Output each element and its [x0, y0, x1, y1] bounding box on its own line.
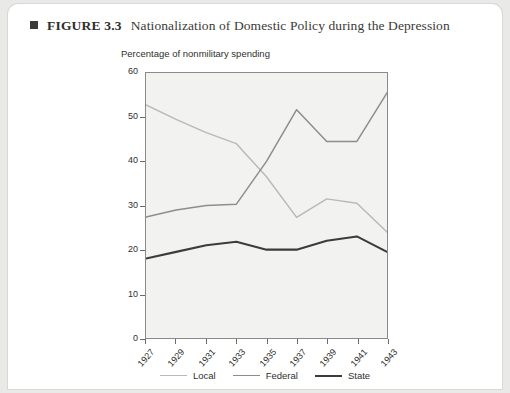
y-tick-label: 40 — [112, 155, 138, 165]
legend-swatch-icon — [315, 375, 342, 377]
x-tick-mark — [236, 339, 237, 344]
y-tick-label: 30 — [112, 200, 138, 210]
plot-area — [145, 72, 388, 339]
figure-footnote — [30, 382, 330, 389]
x-tick-mark — [327, 339, 328, 344]
legend-label: State — [348, 370, 370, 381]
y-axis-label: Percentage of nonmilitary spending — [121, 48, 270, 59]
chart-legend: LocalFederalState — [160, 370, 370, 381]
series-line-federal — [146, 93, 387, 217]
legend-item-local: Local — [160, 370, 216, 381]
y-tick-label: 50 — [112, 111, 138, 121]
x-tick-mark — [297, 339, 298, 344]
legend-label: Local — [193, 370, 216, 381]
x-tick-mark — [388, 339, 389, 344]
y-tick-label: 0 — [112, 333, 138, 343]
series-lines — [146, 73, 387, 338]
legend-swatch-icon — [160, 375, 187, 376]
legend-label: Federal — [266, 370, 298, 381]
chart: Percentage of nonmilitary spending 01020… — [8, 4, 502, 389]
x-tick-mark — [175, 339, 176, 344]
x-tick-mark — [267, 339, 268, 344]
x-tick-mark — [206, 339, 207, 344]
figure-page: FIGURE 3.3 Nationalization of Domestic P… — [8, 4, 502, 389]
x-tick-mark — [145, 339, 146, 344]
x-tick-mark — [358, 339, 359, 344]
y-tick-label: 20 — [112, 244, 138, 254]
series-line-local — [146, 105, 387, 232]
legend-swatch-icon — [233, 375, 260, 376]
legend-item-state: State — [315, 370, 370, 381]
series-line-state — [146, 236, 387, 258]
legend-item-federal: Federal — [233, 370, 298, 381]
y-tick-label: 60 — [112, 66, 138, 76]
y-tick-label: 10 — [112, 289, 138, 299]
